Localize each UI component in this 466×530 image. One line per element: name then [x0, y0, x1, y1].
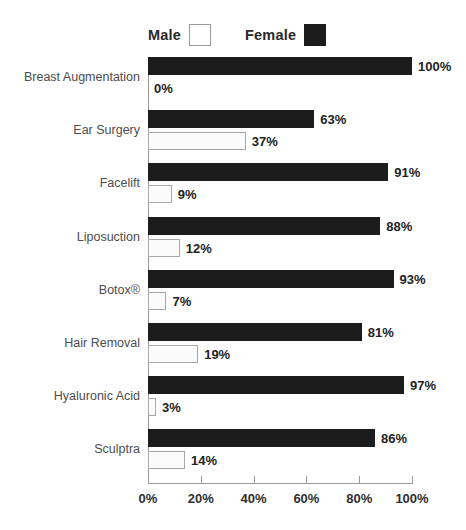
bar-row: 7%	[148, 292, 412, 310]
bar-male	[148, 132, 246, 150]
bar-male	[148, 451, 185, 469]
bar-male	[148, 398, 156, 416]
bar-row: 91%	[148, 163, 412, 181]
bar-row: 93%	[148, 270, 412, 288]
x-axis-tick-label: 60%	[293, 491, 319, 506]
category-label-column: Breast AugmentationEar SurgeryFaceliftLi…	[0, 0, 140, 530]
bar-female	[148, 110, 314, 128]
x-axis-tick-label: 0%	[139, 491, 158, 506]
bar-row: 81%	[148, 323, 412, 341]
legend-item-female: Female	[245, 24, 326, 46]
bar-value-male: 37%	[252, 134, 278, 149]
category-label: Hair Removal	[0, 336, 140, 350]
bar-row: 86%	[148, 429, 412, 447]
bar-row: 19%	[148, 345, 412, 363]
bar-row: 37%	[148, 132, 412, 150]
chart-legend: Male Female	[148, 22, 326, 48]
bar-female	[148, 163, 388, 181]
bar-row: 3%	[148, 398, 412, 416]
bar-value-male: 12%	[186, 240, 212, 255]
bar-value-female: 88%	[386, 218, 412, 233]
female-swatch-icon	[304, 24, 326, 46]
category-label: Breast Augmentation	[0, 70, 140, 84]
x-axis-line	[148, 483, 413, 484]
male-swatch-icon	[189, 24, 211, 46]
bar-row: 88%	[148, 217, 412, 235]
bar-row: 14%	[148, 451, 412, 469]
x-axis-tick	[201, 476, 202, 483]
legend-item-male: Male	[148, 24, 211, 46]
x-axis-tick-label: 40%	[241, 491, 267, 506]
category-label: Facelift	[0, 176, 140, 190]
bar-chart: Male Female Breast AugmentationEar Surge…	[0, 0, 466, 530]
category-label: Liposuction	[0, 230, 140, 244]
bar-value-female: 63%	[320, 112, 346, 127]
bar-value-male: 3%	[162, 400, 181, 415]
bar-row: 63%	[148, 110, 412, 128]
x-axis-tick-label: 100%	[395, 491, 428, 506]
bar-male	[148, 239, 180, 257]
category-label: Ear Surgery	[0, 123, 140, 137]
bar-value-female: 86%	[381, 431, 407, 446]
bar-value-male: 9%	[178, 187, 197, 202]
legend-label-female: Female	[245, 27, 296, 43]
x-axis-tick-label: 20%	[188, 491, 214, 506]
bar-value-male: 0%	[154, 81, 173, 96]
bar-female	[148, 217, 380, 235]
bar-value-female: 97%	[410, 378, 436, 393]
bar-female	[148, 57, 412, 75]
x-axis-tick	[359, 476, 360, 483]
bar-value-male: 14%	[191, 453, 217, 468]
bar-value-female: 93%	[400, 271, 426, 286]
category-label: Botox®	[0, 283, 140, 297]
bar-male	[148, 185, 172, 203]
bar-value-male: 19%	[204, 347, 230, 362]
x-axis-tick	[306, 476, 307, 483]
bar-row: 0%	[148, 79, 412, 97]
x-axis-tick	[148, 476, 149, 483]
category-label: Hyaluronic Acid	[0, 389, 140, 403]
bar-female	[148, 323, 362, 341]
bar-row: 100%	[148, 57, 412, 75]
category-label: Sculptra	[0, 442, 140, 456]
bar-row: 9%	[148, 185, 412, 203]
bar-male	[148, 345, 198, 363]
bar-male	[148, 292, 166, 310]
bar-value-female: 100%	[418, 59, 451, 74]
bar-female	[148, 376, 404, 394]
x-axis-tick	[254, 476, 255, 483]
bar-value-male: 7%	[172, 293, 191, 308]
x-axis-tick	[412, 476, 413, 483]
bar-female	[148, 429, 375, 447]
x-axis-tick-label: 80%	[346, 491, 372, 506]
bar-value-female: 81%	[368, 325, 394, 340]
legend-label-male: Male	[148, 27, 181, 43]
bar-female	[148, 270, 394, 288]
bar-row: 12%	[148, 239, 412, 257]
bar-row: 97%	[148, 376, 412, 394]
bar-value-female: 91%	[394, 165, 420, 180]
